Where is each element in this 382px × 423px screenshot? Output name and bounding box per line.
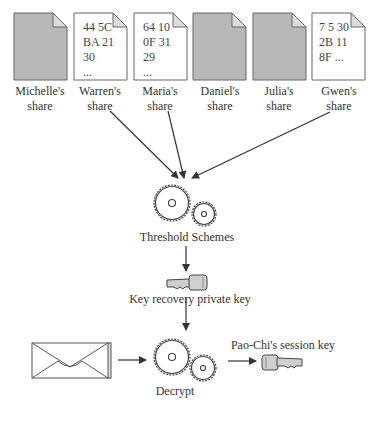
key-recovery-label: Key recovery private key — [110, 292, 270, 307]
key-icon-recovery — [167, 275, 207, 290]
share-content: 64 10 0F 31 29 ... — [143, 20, 171, 80]
threshold-schemes-label: Threshold Schemes — [120, 230, 254, 245]
share-doc-gwen: 7 5 30 2B 11 8F ... — [311, 12, 365, 80]
arrow-maria-to-threshold — [168, 111, 184, 178]
gears-icon-threshold — [154, 185, 216, 226]
share-content: 44 5C BA 21 30 ... — [83, 20, 114, 80]
share-doc-maria: 64 10 0F 31 29 ... — [133, 12, 187, 80]
share-sub: share — [304, 99, 374, 114]
arrow-gwen-to-threshold — [192, 112, 330, 178]
gears-icon-decrypt — [154, 339, 216, 381]
share-label-gwen: Gwen's share — [304, 84, 374, 114]
key-recovery-diagram: 44 5C BA 21 30 ... 64 10 0F 31 29 ... 7 … — [0, 0, 382, 423]
share-content: 7 5 30 2B 11 8F ... — [319, 20, 349, 65]
arrow-warren-to-threshold — [110, 111, 178, 178]
share-owner: Gwen's — [304, 84, 374, 99]
key-icon-session — [262, 355, 302, 370]
share-doc-warren: 44 5C BA 21 30 ... — [73, 12, 127, 80]
decrypt-label: Decrypt — [150, 384, 200, 399]
envelope-icon — [32, 343, 111, 378]
share-doc-julia — [252, 12, 306, 80]
share-arrows — [110, 111, 330, 178]
share-doc-michelle — [13, 12, 67, 80]
session-key-label: Pao-Chi's session key — [226, 338, 340, 353]
share-doc-daniel — [192, 12, 246, 80]
